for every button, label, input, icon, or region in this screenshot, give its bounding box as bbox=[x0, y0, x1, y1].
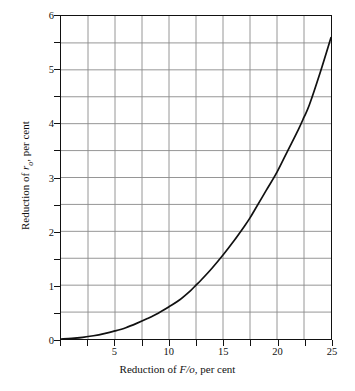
x-axis-title: Reduction of F/o, per cent bbox=[0, 363, 355, 375]
x-axis-tick-labels: 510152025 bbox=[60, 346, 332, 360]
y-tick-label: 5 bbox=[32, 64, 54, 75]
x-tick-label: 20 bbox=[272, 346, 283, 357]
y-tick-label: 3 bbox=[32, 172, 54, 183]
y-axis-title: Reduction of ro, per cent bbox=[19, 61, 34, 291]
y-tick-label: 1 bbox=[32, 280, 54, 291]
y-tick-mark bbox=[54, 259, 60, 260]
y-tick-mark bbox=[54, 15, 60, 16]
y-tick-mark bbox=[54, 123, 60, 124]
y-tick-mark bbox=[54, 42, 60, 43]
y-tick-label: 0 bbox=[32, 335, 54, 346]
x-tick-label: 15 bbox=[218, 346, 229, 357]
y-tick-mark bbox=[54, 178, 60, 179]
y-tick-mark bbox=[54, 205, 60, 206]
y-tick-mark bbox=[54, 232, 60, 233]
x-axis-title-suffix: , per cent bbox=[195, 363, 236, 375]
y-tick-label: 2 bbox=[32, 226, 54, 237]
y-axis-tick-marks bbox=[60, 15, 332, 340]
y-axis-title-suffix: , per cent bbox=[19, 121, 31, 162]
x-axis-title-prefix: Reduction of bbox=[120, 363, 180, 375]
x-tick-label: 25 bbox=[327, 346, 338, 357]
figure-container: 0123456 510152025 Reduction of F/o, per … bbox=[0, 0, 355, 391]
x-tick-label: 5 bbox=[112, 346, 117, 357]
y-tick-label: 6 bbox=[32, 10, 54, 21]
x-axis-title-variable: F/o bbox=[179, 363, 194, 375]
y-tick-mark bbox=[54, 69, 60, 70]
y-axis-title-variable: r bbox=[19, 166, 31, 170]
x-tick-label: 10 bbox=[164, 346, 175, 357]
y-axis-title-subscript: o bbox=[26, 162, 35, 166]
y-tick-mark bbox=[54, 286, 60, 287]
y-tick-mark bbox=[54, 313, 60, 314]
y-axis-title-prefix: Reduction of bbox=[19, 170, 31, 230]
y-tick-mark bbox=[54, 150, 60, 151]
y-tick-label: 4 bbox=[32, 118, 54, 129]
y-tick-mark bbox=[54, 96, 60, 97]
